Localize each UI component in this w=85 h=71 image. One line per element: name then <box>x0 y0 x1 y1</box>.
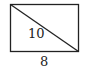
bottom-side-label: 8 <box>40 54 48 69</box>
diagonal-label: 10 <box>28 26 45 41</box>
rectangle-diagram: 10 8 <box>0 0 85 71</box>
